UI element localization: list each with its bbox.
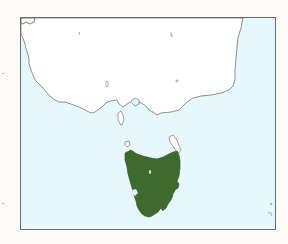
map-canvas — [21, 18, 276, 230]
small-island — [125, 141, 130, 147]
left-tick-mark — [2, 73, 4, 74]
flinders-island — [169, 135, 181, 153]
offshore-island — [270, 203, 272, 205]
king-island — [118, 111, 124, 125]
map-frame — [20, 17, 276, 230]
left-tick-mark — [2, 203, 4, 204]
tasmania-highlighted — [125, 150, 180, 217]
tasmania-lake — [149, 170, 151, 174]
offshore-island — [268, 213, 272, 216]
